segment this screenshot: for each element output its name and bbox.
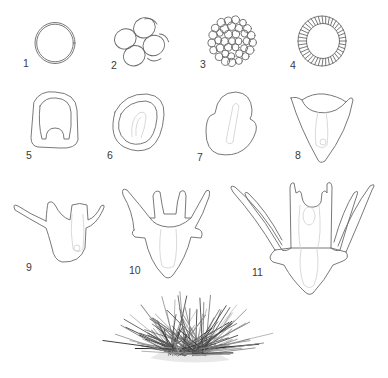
stage-3-morula	[208, 16, 257, 67]
label-11: 11	[252, 267, 263, 278]
label-8: 8	[295, 150, 301, 161]
label-10: 10	[129, 265, 141, 276]
adult-sea-urchin	[103, 292, 273, 363]
stage-6-gastrula	[113, 94, 164, 151]
stage-4-blastula	[298, 16, 346, 66]
stage-9-2arm-pluteus	[14, 202, 104, 262]
label-1: 1	[23, 58, 29, 69]
label-9: 9	[26, 262, 32, 273]
label-5: 5	[26, 150, 32, 161]
label-4: 4	[290, 60, 296, 71]
development-diagram	[0, 0, 388, 378]
label-7: 7	[197, 152, 203, 163]
stage-7-prism	[206, 92, 256, 155]
stage-2-cleavage	[110, 12, 174, 74]
label-3: 3	[200, 59, 206, 70]
stage-1-egg	[35, 23, 75, 64]
stage-5-early-gastrula	[31, 92, 78, 148]
label-2: 2	[111, 60, 117, 71]
label-6: 6	[107, 150, 113, 161]
